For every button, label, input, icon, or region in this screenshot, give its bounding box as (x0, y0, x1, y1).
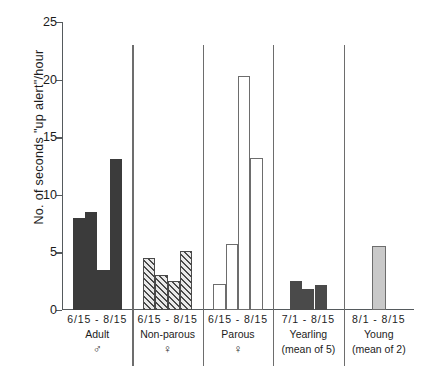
x-group-sex-symbol: ♀ (203, 342, 273, 356)
bar (372, 246, 386, 311)
x-group-sex-symbol: ♀ (132, 342, 202, 356)
x-group-name: Parous (203, 327, 273, 342)
x-group-label: 6/15 - 8/15Adult♂ (62, 312, 132, 356)
x-group-subnote: (mean of 2) (344, 342, 414, 357)
bar (110, 159, 122, 310)
bar (213, 284, 225, 310)
x-group-range: 7/1 - 8/15 (273, 312, 343, 327)
x-group-range: 6/15 - 8/15 (132, 312, 202, 327)
bar (226, 244, 238, 310)
x-group-range: 6/15 - 8/15 (203, 312, 273, 327)
x-group-label: 6/15 - 8/15Parous♀ (203, 312, 273, 356)
x-group-label: 8/1 - 8/15Young(mean of 2) (344, 312, 414, 357)
bar (315, 285, 327, 310)
bar-series-container (62, 22, 414, 310)
bar (97, 270, 109, 310)
bar (250, 158, 262, 310)
x-group-subnote: (mean of 5) (273, 342, 343, 357)
bar (73, 218, 85, 310)
y-tick-label: 20 (43, 73, 57, 87)
y-tick-label: 10 (43, 188, 57, 202)
bar (290, 281, 302, 310)
x-group-range: 8/1 - 8/15 (344, 312, 414, 327)
x-group-sex-symbol: ♂ (62, 342, 132, 356)
bar-chart-figure: No. of seconds "up alert"/hour 051015202… (0, 0, 422, 366)
y-tick-label: 5 (50, 245, 57, 259)
x-group-label: 7/1 - 8/15Yearling(mean of 5) (273, 312, 343, 357)
x-group-name: Adult (62, 327, 132, 342)
bar (85, 212, 97, 310)
x-group-name: Yearling (273, 327, 343, 342)
x-axis-group-labels: 6/15 - 8/15Adult♂6/15 - 8/15Non-parous♀6… (62, 312, 414, 366)
bar (238, 76, 250, 310)
y-tick-label: 25 (43, 15, 57, 29)
x-group-name: Non-parous (132, 327, 202, 342)
y-tick-label: 15 (43, 130, 57, 144)
bar (168, 281, 180, 310)
bar (155, 275, 167, 310)
bar (180, 251, 192, 310)
x-group-label: 6/15 - 8/15Non-parous♀ (132, 312, 202, 356)
x-group-range: 6/15 - 8/15 (62, 312, 132, 327)
bar (302, 289, 314, 310)
plot-area: 0510152025 (62, 22, 414, 310)
x-group-name: Young (344, 327, 414, 342)
bar (143, 258, 155, 310)
y-tick-label: 0 (50, 303, 57, 317)
